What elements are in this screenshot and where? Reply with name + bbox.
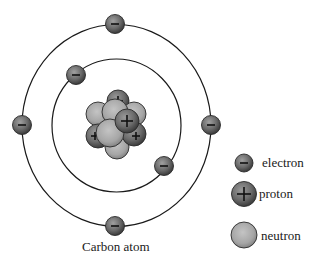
legend-label-neutron: neutron [261,228,301,243]
legend-label-electron: electron [262,155,304,170]
electron-icon [106,217,125,236]
carbon-atom-diagram: Carbon atom electron proton neutron [0,0,316,267]
neutron-icon [231,222,257,248]
electron-icon [202,116,221,135]
legend-item-proton: proton [232,182,294,207]
legend-item-neutron: neutron [231,222,301,248]
diagram-caption: Carbon atom [82,239,150,254]
electron-icon [13,116,32,135]
proton-icon [115,109,139,133]
electron-icon [235,154,253,172]
legend: electron proton neutron [231,154,304,248]
electron-icon [155,157,174,176]
electron-icon [106,15,125,34]
legend-item-electron: electron [235,154,304,172]
proton-icon [232,182,257,207]
nucleus [86,90,146,159]
electron-icon [67,66,86,85]
legend-label-proton: proton [259,186,293,201]
